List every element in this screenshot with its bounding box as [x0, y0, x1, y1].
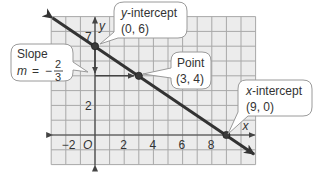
slope-title: Slope: [17, 47, 48, 61]
x-tick-label: 8: [208, 138, 215, 152]
slope-numerator: 2: [55, 58, 61, 70]
y-tick-label: 7: [85, 30, 92, 44]
y-tick-label: 2: [85, 99, 92, 113]
point-marker: [91, 43, 98, 50]
slope-denominator: 3: [55, 71, 61, 83]
x-tick-label: 4: [149, 138, 156, 152]
slope-sign: −: [45, 64, 52, 78]
x-intercept-title: x-intercept: [245, 84, 303, 98]
point-coords: (3, 4): [176, 72, 204, 86]
x-tick-label: 2: [120, 138, 127, 152]
y-intercept-title: y-intercept: [120, 6, 178, 20]
y-axis-label: y: [98, 19, 106, 33]
point-marker: [135, 72, 142, 79]
slope-equals: =: [32, 64, 39, 78]
slope-m: m: [17, 64, 27, 78]
diagram: xy −22468O27 Slope m = − 2 3 y-intercept…: [0, 0, 315, 174]
x-tick-label: 6: [179, 138, 186, 152]
x-tick-label: −2: [62, 138, 76, 152]
point-title: Point: [177, 56, 205, 70]
x-intercept-coords: (9, 0): [246, 100, 274, 114]
y-intercept-coords: (0, 6): [121, 22, 149, 36]
origin-label: O: [83, 138, 92, 152]
